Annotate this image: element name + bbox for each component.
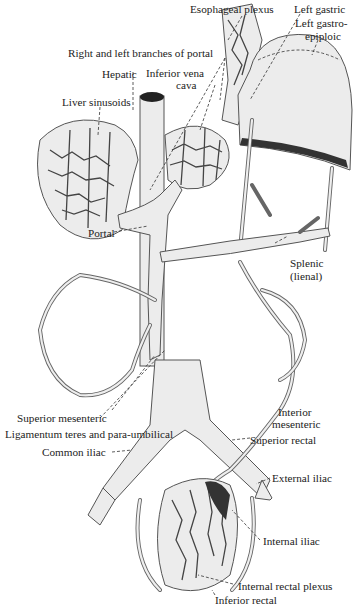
label-hepatic: Hepatic [102, 68, 137, 80]
label-inferior-rectal: Inferior rectal [215, 594, 277, 606]
label-inferior-vena-cava-line2: cava [176, 79, 197, 91]
label-portal: Portal [88, 227, 115, 239]
label-splenic-line2: (lienal) [290, 270, 322, 282]
label-common-iliac: Common iliac [42, 446, 106, 458]
label-superior-mesenteric: Superior mesenteric [17, 412, 107, 424]
label-inferior-mesenteric-line2: mesenteric [272, 418, 320, 430]
label-left-gastro-epiploic-line2: epiploic [305, 30, 341, 42]
label-internal-iliac: Internal iliac [263, 535, 320, 547]
label-ligamentum-teres: Ligamentum teres and para-umbilical [5, 428, 173, 440]
label-inferior-mesenteric-line1: Interior [278, 406, 312, 418]
label-inferior-vena-cava-line1: Inferior vena [146, 67, 204, 79]
label-right-left-branches-portal: Right and left branches of portal [68, 47, 213, 59]
portal-system-diagram: Esophageal plexus Left gastric Left gast… [0, 0, 360, 613]
label-splenic-line1: Splenic [290, 257, 324, 269]
label-internal-rectal-plexus: Internal rectal plexus [238, 580, 332, 592]
label-liver-sinusoids: Liver sinusoids [62, 96, 131, 108]
label-left-gastric: Left gastric [294, 3, 345, 15]
label-esophageal-plexus: Esophageal plexus [190, 3, 274, 15]
label-external-iliac: External iliac [272, 472, 332, 484]
vessel-illustration [0, 0, 360, 613]
label-left-gastro-epiploic-line1: Left gastro- [295, 17, 348, 29]
label-superior-rectal: Superior rectal [250, 434, 316, 446]
